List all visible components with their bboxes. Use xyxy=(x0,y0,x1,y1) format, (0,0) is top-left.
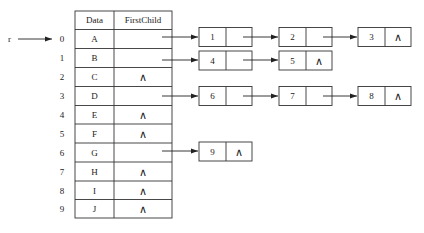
list-node: 4 xyxy=(199,51,252,70)
node-value: 4 xyxy=(210,56,215,66)
null-pointer-icon: ∧ xyxy=(139,109,147,122)
data-cell: A xyxy=(91,34,98,44)
child-list-row-1: 4 5 ∧ xyxy=(199,51,332,70)
row-index: 2 xyxy=(60,72,65,82)
row-index: 8 xyxy=(60,186,65,196)
child-list-row-3: 6 7 8 ∧ xyxy=(199,87,411,106)
data-cell: E xyxy=(92,110,98,120)
row-index: 4 xyxy=(60,110,65,120)
node-value: 2 xyxy=(290,32,295,42)
root-pointer-label: r xyxy=(8,34,11,44)
data-cell: C xyxy=(91,72,97,82)
null-pointer-icon: ∧ xyxy=(139,128,147,141)
header-firstchild: FirstChild xyxy=(125,15,162,25)
null-pointer-icon: ∧ xyxy=(235,146,243,159)
node-value: 6 xyxy=(210,91,215,101)
row-index: 1 xyxy=(60,53,65,63)
node-value: 5 xyxy=(290,56,295,66)
null-pointer-icon: ∧ xyxy=(315,55,323,68)
null-pointer-icon: ∧ xyxy=(394,31,402,44)
null-pointer-icon: ∧ xyxy=(139,71,147,84)
node-value: 9 xyxy=(210,147,215,157)
list-node: 3 ∧ xyxy=(358,28,411,47)
null-pointer-icon: ∧ xyxy=(139,185,147,198)
node-value: 1 xyxy=(210,32,215,42)
data-cell: G xyxy=(91,148,98,158)
list-node: 8 ∧ xyxy=(358,87,411,106)
node-value: 3 xyxy=(369,32,374,42)
child-list-row-0: 1 2 3 ∧ xyxy=(199,28,411,47)
node-value: 8 xyxy=(369,91,374,101)
data-cell: J xyxy=(93,204,97,214)
data-cell: I xyxy=(93,186,96,196)
data-cell: D xyxy=(91,91,98,101)
null-pointer-icon: ∧ xyxy=(139,203,147,216)
row-index: 5 xyxy=(60,129,65,139)
node-value: 7 xyxy=(290,91,295,101)
row-index: 7 xyxy=(60,167,65,177)
child-list-diagram: r Data FirstChild 0 1 2 3 4 5 6 7 8 9 A … xyxy=(0,0,424,233)
null-pointer-icon: ∧ xyxy=(139,166,147,179)
row-index: 3 xyxy=(60,91,65,101)
header-data: Data xyxy=(86,15,103,25)
row-index: 6 xyxy=(60,148,65,158)
firstchild-arrows xyxy=(162,37,198,151)
list-node: 9 ∧ xyxy=(199,142,252,161)
row-index: 9 xyxy=(60,204,65,214)
null-pointer-icon: ∧ xyxy=(394,90,402,103)
child-list-row-6: 9 ∧ xyxy=(199,142,252,161)
data-cell: B xyxy=(91,53,97,63)
data-cell: F xyxy=(92,129,97,139)
data-cell: H xyxy=(91,167,98,177)
row-index: 0 xyxy=(60,34,65,44)
node-table xyxy=(75,11,172,218)
row-indexes: 0 1 2 3 4 5 6 7 8 9 xyxy=(60,34,65,214)
firstchild-column: ∧ ∧ ∧ ∧ ∧ ∧ xyxy=(139,71,147,216)
list-node: 5 ∧ xyxy=(279,51,332,70)
